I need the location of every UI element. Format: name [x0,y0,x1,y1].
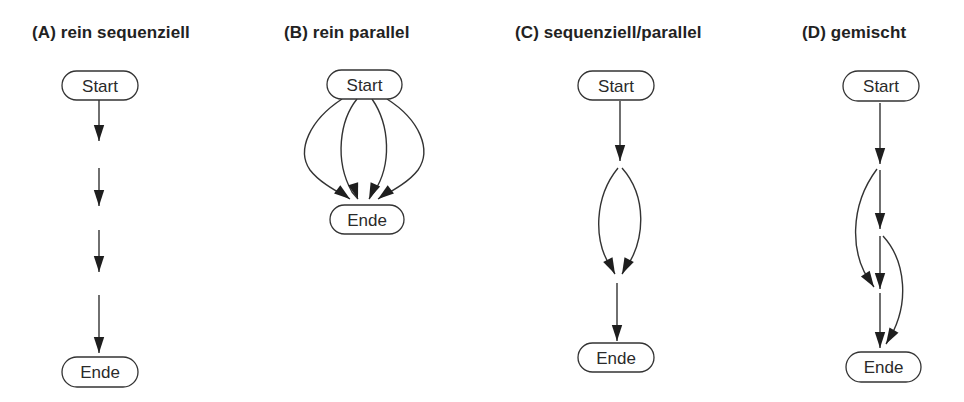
arrowhead-icon [875,332,885,348]
start-node: Start [62,71,138,100]
arrowhead-icon [622,257,634,274]
arrowhead-icon [334,185,350,199]
arrowhead-icon [348,182,358,199]
edge-line [883,236,903,344]
arrowhead-icon [615,145,625,161]
arrowhead-icon [861,271,874,287]
start-node: Start [843,71,919,101]
arrowhead-icon [378,185,394,199]
arrowhead-icon [94,125,104,141]
arrowhead-icon [603,257,615,274]
edge-line [378,99,424,199]
end-node: Ende [846,352,921,382]
node-label: Ende [347,211,387,230]
start-node: Start [578,71,654,100]
arrowhead-icon [612,325,622,341]
start-node: Start [327,70,402,99]
arrowhead-icon [94,337,104,353]
panel-d-mixed: StartEnde [843,71,921,382]
arrowhead-icon [886,328,898,344]
end-node: Ende [62,357,138,387]
edge-line [599,168,618,274]
edge-line [305,99,350,199]
edge-line [856,169,877,287]
node-label: Ende [864,358,904,377]
node-label: Start [863,77,899,96]
panel-b-parallel: StartEnde [305,70,424,234]
panel-a-sequential: StartEnde [62,71,138,387]
end-node: Ende [330,205,404,234]
arrowhead-icon [94,190,104,206]
node-label: Start [347,76,383,95]
end-node: Ende [578,343,654,372]
node-label: Ende [80,363,120,382]
diagram-canvas: StartEnde StartEnde StartEnde StartEnde [0,0,964,402]
arrowhead-icon [875,148,885,164]
node-label: Start [82,77,118,96]
arrowhead-icon [875,273,885,289]
node-label: Start [598,77,634,96]
node-label: Ende [596,349,636,368]
panel-c-sequential-parallel: StartEnde [578,71,654,372]
arrowhead-icon [875,213,885,229]
arrowhead-icon [94,256,104,272]
